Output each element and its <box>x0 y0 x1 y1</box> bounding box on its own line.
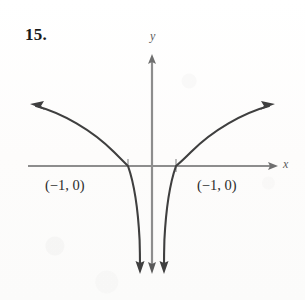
graph-canvas <box>0 0 305 300</box>
x-axis-label: x <box>283 158 288 170</box>
y-axis-label: y <box>150 30 155 42</box>
curve-left-upper-arrowhead <box>30 101 45 110</box>
right-intercept-label: (−1, 0) <box>197 178 237 193</box>
left-intercept-label: (−1, 0) <box>45 178 85 193</box>
axes-group <box>28 54 278 274</box>
math-figure: 15. y <box>0 0 305 300</box>
curve-right-upper-arrowhead <box>260 101 275 110</box>
